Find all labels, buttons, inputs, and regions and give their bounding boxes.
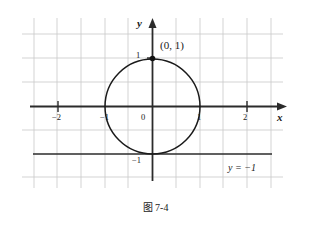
figure-caption: 图 7-4 (0, 199, 311, 214)
y-axis-arrowhead (149, 18, 157, 28)
x-tick-label-neg2: −2 (52, 113, 61, 122)
tangent-line-label: y = −1 (228, 163, 256, 173)
y-tick-label-neg1: −1 (132, 156, 141, 165)
x-tick-label-pos1: 1 (197, 113, 201, 122)
origin-label: 0 (141, 113, 145, 122)
y-tick-label-1: 1 (136, 51, 140, 60)
x-tick-label-pos2: 2 (243, 113, 247, 122)
figure-container: x y (0, 1) 1 −2 −1 1 2 0 −1 y = −1 图 7-4 (0, 0, 311, 226)
point-label-0-1: (0, 1) (160, 40, 184, 51)
point-marker-0-1 (150, 56, 156, 62)
coordinate-plane-plot (0, 0, 311, 226)
x-tick-label-neg1: −1 (100, 113, 109, 122)
y-axis-label: y (137, 18, 142, 29)
x-axis-arrowhead (277, 103, 287, 111)
x-axis-label: x (277, 112, 283, 123)
